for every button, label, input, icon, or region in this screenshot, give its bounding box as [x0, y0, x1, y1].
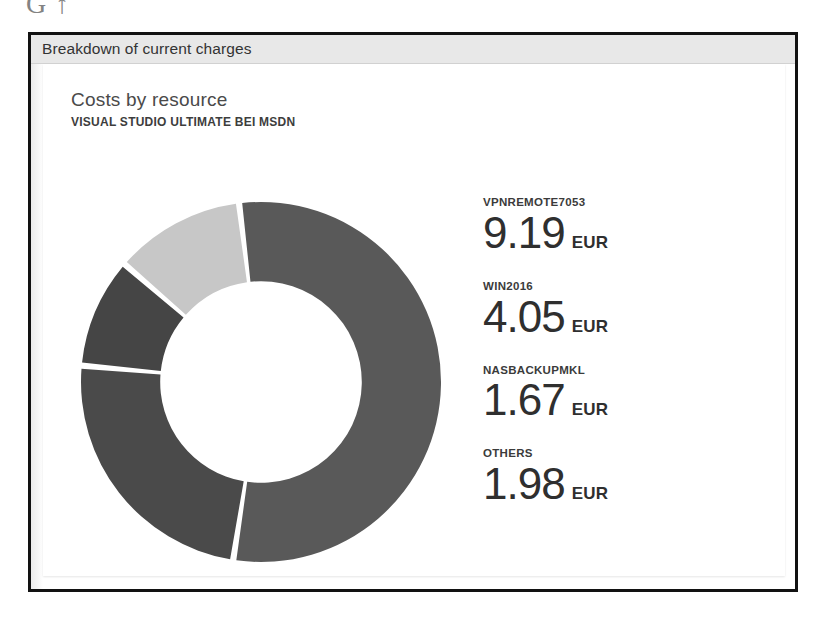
legend-item-value-row: 4.05EUR: [483, 295, 783, 339]
card-subtitle: VISUAL STUDIO ULTIMATE BEI MSDN: [71, 115, 295, 129]
legend-item-amount: 4.05: [483, 295, 565, 339]
legend-item-amount: 9.19: [483, 211, 565, 255]
costs-by-resource-card[interactable]: Costs by resource VISUAL STUDIO ULTIMATE…: [43, 64, 785, 576]
legend-item[interactable]: VPNREMOTE70539.19EUR: [483, 196, 783, 255]
card-title-block: Costs by resource VISUAL STUDIO ULTIMATE…: [71, 89, 295, 129]
panel-title: Breakdown of current charges: [42, 40, 252, 58]
breakdown-panel: Breakdown of current charges Costs by re…: [28, 32, 798, 592]
panel-header: Breakdown of current charges: [31, 35, 795, 64]
donut-chart-svg[interactable]: [61, 182, 461, 582]
legend-item-value-row: 1.67EUR: [483, 378, 783, 422]
legend-item-currency: EUR: [572, 400, 609, 420]
legend-item-currency: EUR: [572, 317, 609, 337]
legend-item[interactable]: OTHERS1.98EUR: [483, 447, 783, 506]
legend-item-amount: 1.67: [483, 378, 565, 422]
donut-chart[interactable]: [61, 182, 461, 582]
donut-segment[interactable]: [236, 202, 441, 562]
legend-item-value-row: 1.98EUR: [483, 462, 783, 506]
donut-segment[interactable]: [81, 369, 244, 560]
legend-item-currency: EUR: [572, 484, 609, 504]
legend-item[interactable]: NASBACKUPMKL1.67EUR: [483, 364, 783, 423]
legend-item-currency: EUR: [572, 233, 609, 253]
legend-list: VPNREMOTE70539.19EURWIN20164.05EURNASBAC…: [483, 196, 783, 506]
legend-item[interactable]: WIN20164.05EUR: [483, 280, 783, 339]
scan-artifact: G ↑: [26, 0, 70, 20]
card-title: Costs by resource: [71, 89, 295, 111]
panel-gutter: [31, 64, 43, 589]
legend-item-value-row: 9.19EUR: [483, 211, 783, 255]
legend-item-amount: 1.98: [483, 462, 565, 506]
